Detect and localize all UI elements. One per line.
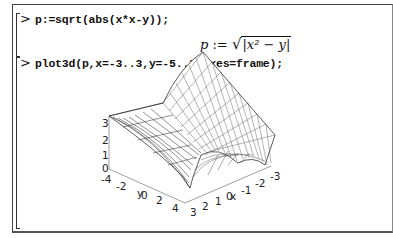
maple-worksheet: > p:=sqrt(abs(x*x-y)); p := √|x² − y| > … [12,4,393,233]
y-tick-neg4: -4 [101,173,111,185]
x-tick-3: 3 [190,206,197,218]
plot3d-surface[interactable] [13,5,392,231]
surface-mesh [109,52,275,188]
z-tick-3: 3 [102,117,109,129]
z-tick-1: 1 [102,149,109,161]
y-tick-4: 4 [172,202,179,214]
x-tick-neg1: -1 [241,184,251,196]
x-tick-1: 1 [215,195,222,207]
y-tick-0: 0 [141,189,148,201]
x-tick-neg3: -3 [270,170,280,182]
x-tick-0: 0 [226,190,233,202]
z-tick-2: 2 [102,134,109,146]
y-tick-2: 2 [156,194,163,206]
x-tick-2: 2 [202,200,209,212]
x-tick-neg2: -2 [255,177,265,189]
y-tick-neg2: -2 [116,180,126,192]
